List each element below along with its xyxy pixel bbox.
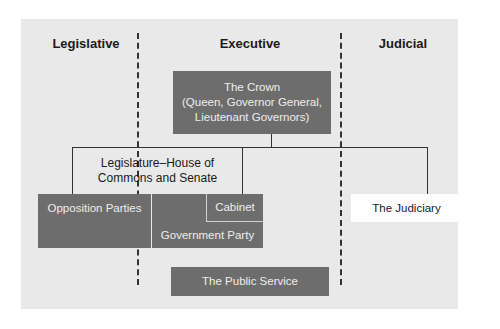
crown-line2: Lieutenant Governors): [195, 110, 309, 125]
header-executive: Executive: [220, 36, 281, 51]
cabinet-box: Cabinet: [206, 194, 263, 222]
judiciary-connector: [427, 147, 428, 194]
legislature-line1: Legislature–House of: [101, 156, 214, 171]
public-service-label: The Public Service: [202, 274, 298, 289]
divider-executive-judicial: [340, 33, 342, 285]
legislature-line2: Commons and Senate: [98, 171, 217, 186]
judiciary-box: The Judiciary: [351, 194, 462, 222]
header-legislative: Legislative: [52, 36, 119, 51]
public-service-box: The Public Service: [171, 267, 329, 296]
crown-box: The Crown (Queen, Governor General, Lieu…: [173, 71, 331, 134]
crown-title: The Crown: [224, 80, 280, 95]
header-judicial: Judicial: [379, 36, 427, 51]
judiciary-label: The Judiciary: [372, 201, 440, 216]
cabinet-label: Cabinet: [215, 200, 255, 215]
crown-connector: [271, 134, 272, 147]
government-party-label: Government Party: [161, 228, 254, 243]
opposition-label: Opposition Parties: [48, 201, 142, 216]
crown-line1: (Queen, Governor General,: [182, 95, 322, 110]
opposition-parties-box: Opposition Parties: [38, 194, 151, 248]
legislature-box: Legislature–House of Commons and Senate: [72, 147, 243, 194]
